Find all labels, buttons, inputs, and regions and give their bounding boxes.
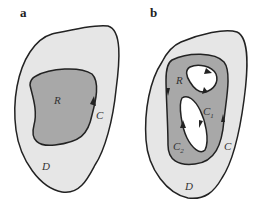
- diagram-canvas: a R C D b R C1 C2 C D: [0, 0, 262, 210]
- domain-label-d: D: [184, 180, 193, 192]
- panel-a-label: a: [20, 5, 27, 20]
- panel-a: a R C D: [15, 5, 119, 192]
- region-label-r: R: [175, 74, 183, 86]
- panel-b-label: b: [150, 5, 157, 20]
- region-label-r: R: [53, 94, 61, 106]
- panel-b: b R C1 C2 C D: [146, 5, 247, 198]
- domain-label-d: D: [41, 160, 50, 172]
- curve-label-c: C: [96, 109, 104, 121]
- curve-label-c: C: [224, 140, 232, 152]
